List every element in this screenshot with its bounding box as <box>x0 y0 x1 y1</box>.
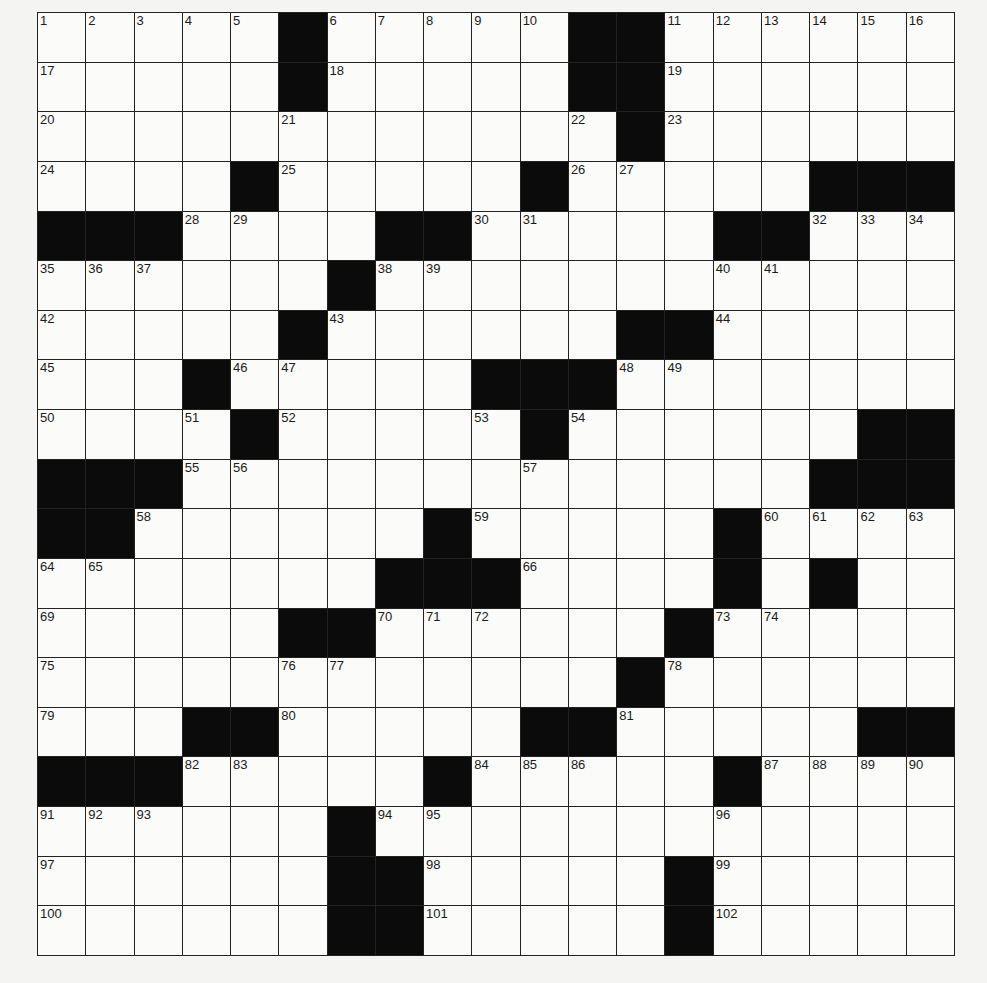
grid-cell[interactable] <box>617 857 664 906</box>
grid-cell[interactable] <box>86 857 133 906</box>
grid-cell[interactable] <box>231 63 278 112</box>
grid-cell[interactable]: 62 <box>858 509 905 558</box>
grid-cell[interactable] <box>762 311 809 360</box>
grid-cell[interactable] <box>183 906 230 955</box>
grid-cell[interactable]: 97 <box>38 857 85 906</box>
grid-cell[interactable] <box>665 509 712 558</box>
grid-cell[interactable] <box>183 559 230 608</box>
grid-cell[interactable]: 34 <box>907 212 954 261</box>
grid-cell[interactable]: 69 <box>38 609 85 658</box>
grid-cell[interactable] <box>907 609 954 658</box>
grid-cell[interactable]: 40 <box>714 261 761 310</box>
grid-cell[interactable] <box>810 261 857 310</box>
grid-cell[interactable] <box>279 757 326 806</box>
grid-cell[interactable]: 24 <box>38 162 85 211</box>
grid-cell[interactable] <box>617 212 664 261</box>
grid-cell[interactable]: 9 <box>472 13 519 62</box>
grid-cell[interactable]: 60 <box>762 509 809 558</box>
grid-cell[interactable] <box>617 559 664 608</box>
grid-cell[interactable] <box>762 460 809 509</box>
grid-cell[interactable] <box>714 658 761 707</box>
grid-cell[interactable] <box>521 112 568 161</box>
grid-cell[interactable]: 31 <box>521 212 568 261</box>
grid-cell[interactable]: 70 <box>376 609 423 658</box>
grid-cell[interactable] <box>665 261 712 310</box>
grid-cell[interactable] <box>376 63 423 112</box>
grid-cell[interactable] <box>569 261 616 310</box>
grid-cell[interactable] <box>617 261 664 310</box>
grid-cell[interactable] <box>810 906 857 955</box>
grid-cell[interactable]: 92 <box>86 807 133 856</box>
grid-cell[interactable] <box>858 311 905 360</box>
grid-cell[interactable]: 15 <box>858 13 905 62</box>
grid-cell[interactable] <box>665 559 712 608</box>
grid-cell[interactable]: 20 <box>38 112 85 161</box>
grid-cell[interactable]: 35 <box>38 261 85 310</box>
grid-cell[interactable]: 89 <box>858 757 905 806</box>
grid-cell[interactable] <box>810 807 857 856</box>
grid-cell[interactable]: 44 <box>714 311 761 360</box>
grid-cell[interactable] <box>907 311 954 360</box>
grid-cell[interactable] <box>569 857 616 906</box>
grid-cell[interactable] <box>328 509 375 558</box>
grid-cell[interactable] <box>762 807 809 856</box>
grid-cell[interactable]: 43 <box>328 311 375 360</box>
grid-cell[interactable]: 5 <box>231 13 278 62</box>
grid-cell[interactable] <box>762 360 809 409</box>
grid-cell[interactable] <box>376 311 423 360</box>
grid-cell[interactable] <box>328 757 375 806</box>
grid-cell[interactable] <box>569 311 616 360</box>
grid-cell[interactable] <box>665 757 712 806</box>
grid-cell[interactable] <box>424 658 471 707</box>
grid-cell[interactable]: 58 <box>135 509 182 558</box>
grid-cell[interactable] <box>328 708 375 757</box>
grid-cell[interactable]: 86 <box>569 757 616 806</box>
grid-cell[interactable] <box>858 658 905 707</box>
grid-cell[interactable] <box>328 212 375 261</box>
grid-cell[interactable] <box>376 460 423 509</box>
grid-cell[interactable]: 10 <box>521 13 568 62</box>
grid-cell[interactable] <box>183 162 230 211</box>
grid-cell[interactable]: 82 <box>183 757 230 806</box>
grid-cell[interactable]: 102 <box>714 906 761 955</box>
grid-cell[interactable]: 95 <box>424 807 471 856</box>
grid-cell[interactable]: 63 <box>907 509 954 558</box>
grid-cell[interactable] <box>907 559 954 608</box>
grid-cell[interactable] <box>135 63 182 112</box>
grid-cell[interactable] <box>665 807 712 856</box>
grid-cell[interactable] <box>279 509 326 558</box>
grid-cell[interactable] <box>858 63 905 112</box>
grid-cell[interactable]: 33 <box>858 212 905 261</box>
grid-cell[interactable] <box>617 906 664 955</box>
grid-cell[interactable]: 22 <box>569 112 616 161</box>
grid-cell[interactable] <box>858 261 905 310</box>
grid-cell[interactable] <box>231 261 278 310</box>
grid-cell[interactable] <box>617 509 664 558</box>
grid-cell[interactable]: 26 <box>569 162 616 211</box>
grid-cell[interactable] <box>135 410 182 459</box>
grid-cell[interactable] <box>183 112 230 161</box>
grid-cell[interactable] <box>858 807 905 856</box>
grid-cell[interactable] <box>376 360 423 409</box>
grid-cell[interactable]: 88 <box>810 757 857 806</box>
grid-cell[interactable]: 39 <box>424 261 471 310</box>
grid-cell[interactable]: 1 <box>38 13 85 62</box>
grid-cell[interactable]: 75 <box>38 658 85 707</box>
grid-cell[interactable] <box>714 410 761 459</box>
grid-cell[interactable] <box>521 807 568 856</box>
grid-cell[interactable]: 8 <box>424 13 471 62</box>
grid-cell[interactable]: 74 <box>762 609 809 658</box>
grid-cell[interactable] <box>665 212 712 261</box>
grid-cell[interactable]: 23 <box>665 112 712 161</box>
grid-cell[interactable] <box>521 311 568 360</box>
grid-cell[interactable] <box>183 857 230 906</box>
grid-cell[interactable] <box>810 112 857 161</box>
grid-cell[interactable] <box>231 807 278 856</box>
grid-cell[interactable] <box>569 807 616 856</box>
grid-cell[interactable] <box>907 112 954 161</box>
grid-cell[interactable] <box>762 708 809 757</box>
grid-cell[interactable]: 56 <box>231 460 278 509</box>
grid-cell[interactable]: 50 <box>38 410 85 459</box>
grid-cell[interactable] <box>135 658 182 707</box>
grid-cell[interactable] <box>86 112 133 161</box>
